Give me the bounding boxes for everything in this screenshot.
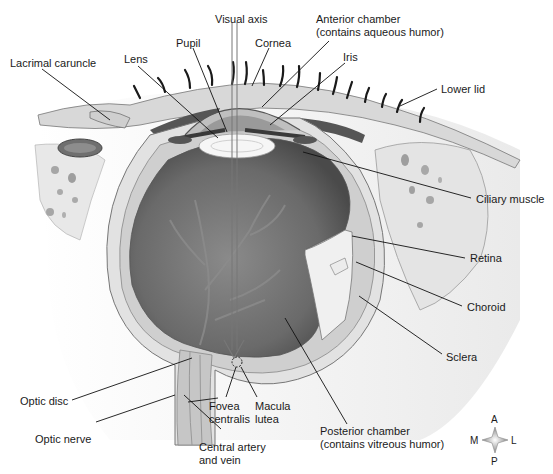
label-retina: Retina — [470, 252, 502, 265]
compass-posterior: P — [491, 455, 498, 468]
compass-anterior: A — [491, 413, 498, 426]
compass-lateral: L — [511, 434, 517, 447]
label-fovea-line1: Fovea — [209, 400, 250, 413]
label-posterior-chamber-line2: (contains vitreous humor) — [320, 438, 444, 451]
label-posterior-chamber-line1: Posterior chamber — [320, 425, 444, 438]
label-anterior-chamber-line2: (contains aqueous humor) — [316, 26, 444, 39]
label-central-artery-line2: and vein — [199, 454, 266, 467]
label-central-artery-line1: Central artery — [199, 441, 266, 454]
label-sclera: Sclera — [446, 351, 477, 364]
label-choroid: Choroid — [467, 301, 506, 314]
compass-medial: M — [470, 434, 478, 447]
label-lower-lid: Lower lid — [441, 83, 485, 96]
label-anterior-chamber-line1: Anterior chamber — [316, 13, 444, 26]
label-pupil: Pupil — [176, 37, 200, 50]
orientation-compass — [482, 427, 508, 453]
label-posterior-chamber: Posterior chamber (contains vitreous hum… — [320, 425, 444, 451]
label-iris: Iris — [343, 51, 358, 64]
label-cornea: Cornea — [255, 37, 291, 50]
label-ciliary-muscle: Ciliary muscle — [476, 193, 544, 206]
label-optic-nerve: Optic nerve — [35, 433, 91, 446]
eye-anatomy-diagram: Visual axis Anterior chamber (contains a… — [0, 0, 553, 474]
label-anterior-chamber: Anterior chamber (contains aqueous humor… — [316, 13, 444, 39]
label-lacrimal-caruncle: Lacrimal caruncle — [10, 57, 96, 70]
label-macula-line2: lutea — [255, 413, 290, 426]
label-visual-axis: Visual axis — [215, 13, 267, 26]
label-central-artery-vein: Central artery and vein — [199, 441, 266, 467]
label-fovea-centralis: Fovea centralis — [209, 400, 250, 426]
label-lens: Lens — [124, 53, 148, 66]
label-fovea-line2: centralis — [209, 413, 250, 426]
label-optic-disc: Optic disc — [20, 395, 68, 408]
label-macula-lutea: Macula lutea — [255, 400, 290, 426]
label-macula-line1: Macula — [255, 400, 290, 413]
